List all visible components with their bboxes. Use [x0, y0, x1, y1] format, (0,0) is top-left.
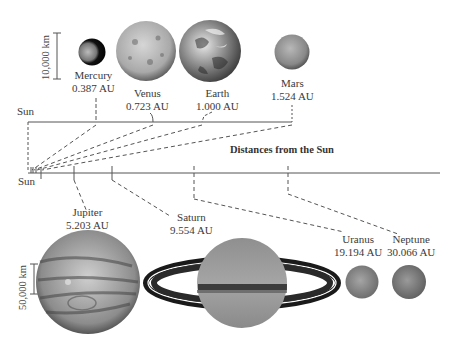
mercury-image: [79, 39, 106, 66]
mars-image: [275, 35, 310, 70]
saturn-image: [146, 238, 338, 328]
label-earth: Earth1.000 AU: [196, 87, 239, 113]
label-neptune: Neptune30.066 AU: [387, 233, 435, 259]
diagram-title: Distances from the Sun: [230, 144, 334, 155]
label-venus: Venus0.723 AU: [126, 87, 169, 113]
sun-label-top: Sun: [17, 105, 34, 118]
uranus-image: [346, 266, 379, 299]
label-mercury: Mercury0.387 AU: [72, 69, 115, 95]
label-mars: Mars1.524 AU: [271, 77, 314, 103]
solar-system-diagram: 10,000 km 50,000 km Mercury0.387 AU Venu…: [0, 0, 456, 353]
label-saturn: Saturn9.554 AU: [170, 211, 213, 237]
sun-label-bottom: Sun: [18, 175, 35, 188]
jupiter-image: [36, 230, 140, 334]
venus-image: [116, 21, 176, 81]
inner-scale-label: 10,000 km: [40, 35, 51, 80]
label-jupiter: Jupiter5.203 AU: [66, 206, 109, 232]
outer-scale-label: 50,000 km: [17, 265, 28, 310]
neptune-image: [392, 265, 426, 299]
label-uranus: Uranus19.194 AU: [334, 233, 382, 259]
inner-scale-bar: [53, 33, 61, 79]
